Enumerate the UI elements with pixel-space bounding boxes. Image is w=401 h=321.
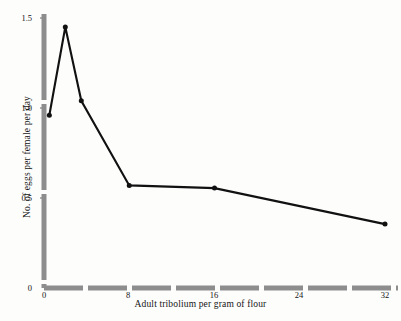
data-point xyxy=(79,98,84,103)
y-axis-title: No. of eggs per female per day xyxy=(22,67,32,247)
y-tick-label-0: 0 xyxy=(6,283,32,293)
data-point xyxy=(212,186,217,191)
line-chart-plot xyxy=(0,0,401,321)
data-series-line xyxy=(49,27,385,224)
data-point xyxy=(127,183,132,188)
data-point xyxy=(63,25,68,30)
data-point xyxy=(383,222,388,227)
data-point xyxy=(47,113,52,118)
chart-figure: 1.5 1.0 0.5 0 0 8 16 24 32 Adult triboli… xyxy=(0,0,401,321)
data-point-markers xyxy=(47,25,388,227)
y-tick-label-1-5: 1.5 xyxy=(6,13,32,23)
x-axis-title: Adult tribolium per gram of flour xyxy=(0,299,401,309)
